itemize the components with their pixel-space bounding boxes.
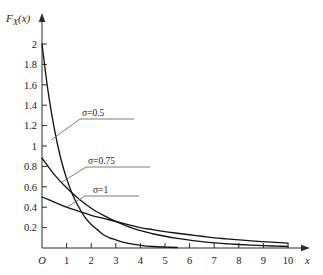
x-axis-label: x	[304, 254, 310, 266]
x-tick-label: 1	[64, 255, 69, 266]
x-tick-label: 5	[162, 255, 167, 266]
curve-sigma-0-5	[42, 44, 177, 247]
x-tick-label: 9	[261, 255, 266, 266]
x-axis-arrow-icon	[301, 245, 310, 252]
x-tick-label: 8	[236, 255, 241, 266]
y-tick-label: 1.8	[24, 59, 37, 70]
y-tick-label: 0.6	[24, 182, 37, 193]
x-tick-label: 6	[187, 255, 192, 266]
x-tick-label: 10	[283, 255, 294, 266]
chart-figure: 0.2 0.4 0.6 0.8 1 1.2 1.4 1.6 1.8 2 1 2 …	[0, 0, 323, 275]
annotation-sigma-0-75: σ=0.75	[88, 156, 115, 166]
x-tick-label: 4	[138, 255, 144, 266]
origin-label: O	[38, 255, 46, 266]
x-tick-label: 3	[113, 255, 118, 266]
x-tick-label: 2	[89, 255, 94, 266]
y-tick-label: 1	[32, 141, 37, 152]
y-axis-arrow-icon	[39, 13, 46, 22]
y-tick-marks	[42, 44, 47, 228]
y-tick-label: 0.8	[24, 161, 37, 172]
y-axis-label-argument: (x)	[18, 12, 31, 25]
x-tick-label: 7	[212, 255, 217, 266]
y-tick-label: 0.2	[24, 222, 37, 233]
y-tick-label: 0.4	[24, 202, 38, 213]
annotation-sigma-1: σ=1	[93, 185, 108, 195]
rayleigh-density-plot: 0.2 0.4 0.6 0.8 1 1.2 1.4 1.6 1.8 2 1 2 …	[0, 0, 323, 275]
annotation-sigma-0-5: σ=0.5	[82, 108, 105, 118]
x-tick-labels: 1 2 3 4 5 6 7 8 9 10	[64, 255, 293, 266]
y-tick-label: 2	[32, 39, 37, 50]
leader-line-sigma-0-5	[51, 119, 134, 140]
leader-line-sigma-0-75	[62, 167, 150, 182]
axes-group	[39, 13, 310, 251]
y-tick-label: 1.4	[24, 100, 38, 111]
y-tick-label: 1.6	[24, 80, 37, 91]
y-axis-label-base: F	[5, 12, 13, 24]
y-axis-label: F X (x)	[5, 12, 31, 27]
y-tick-label: 1.2	[24, 120, 37, 131]
y-tick-labels: 0.2 0.4 0.6 0.8 1 1.2 1.4 1.6 1.8 2	[24, 39, 38, 234]
